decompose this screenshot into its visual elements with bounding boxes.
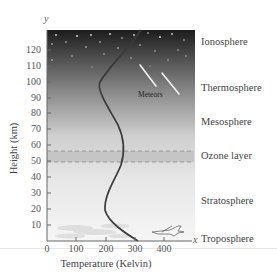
meteors-label: Meteors	[138, 90, 163, 99]
x-tick-label: 200	[99, 244, 114, 254]
y-tick-label: 30	[21, 188, 41, 198]
y-tick-label: 50	[21, 156, 41, 166]
ozone-band	[47, 151, 194, 162]
x-tick-label: 300	[128, 244, 143, 254]
atmosphere-diagram: y x 120 110 100 90 80 70 60 50 40 30 20 …	[0, 0, 277, 278]
layer-label-ozone-layer: Ozone layer	[201, 150, 252, 162]
layer-label-stratosphere: Stratosphere	[201, 195, 254, 207]
y-tick-label: 90	[21, 93, 41, 103]
layer-label-mesosphere: Mesosphere	[201, 116, 252, 128]
x-axis-title: Temperature (Kelvin)	[47, 258, 165, 269]
y-axis-title: Height (km)	[8, 114, 19, 184]
y-tick-label: 100	[21, 77, 41, 87]
y-tick-label: 70	[21, 124, 41, 134]
layer-label-thermosphere: Thermosphere	[201, 82, 262, 94]
y-tick-label: 120	[21, 45, 41, 55]
x-axis-letter: x	[193, 234, 197, 245]
x-tick-label: 100	[69, 244, 84, 254]
y-tick-label: 20	[21, 204, 41, 214]
x-tick-label: 0	[45, 244, 50, 254]
y-axis-letter: y	[44, 13, 48, 24]
y-tick-label: 40	[21, 172, 41, 182]
y-tick-label: 80	[21, 108, 41, 118]
y-tick-label: 110	[21, 61, 41, 71]
layer-label-troposphere: Troposphere	[201, 233, 254, 245]
y-tick-label: 60	[21, 140, 41, 150]
x-tick-label: 400	[157, 244, 172, 254]
y-tick-label: 10	[21, 220, 41, 230]
layer-label-ionosphere: Ionosphere	[201, 36, 248, 48]
